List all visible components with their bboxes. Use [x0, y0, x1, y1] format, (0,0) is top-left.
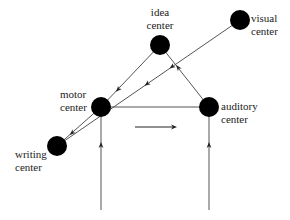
node-motor-center [91, 97, 111, 117]
label-idea-center: idea center [137, 6, 183, 32]
label-auditory-center: auditory center [221, 100, 258, 126]
edge-auditory-to-idea [160, 45, 209, 107]
node-visual-center [230, 10, 250, 30]
node-idea-center [150, 35, 170, 55]
label-motor-center: motor center [60, 88, 87, 114]
node-auditory-center [199, 97, 219, 117]
node-writing-center [47, 136, 67, 156]
edge-idea-to-motor [101, 45, 160, 107]
label-visual-center: visual center [251, 12, 278, 38]
label-writing-center: writing center [15, 148, 47, 174]
